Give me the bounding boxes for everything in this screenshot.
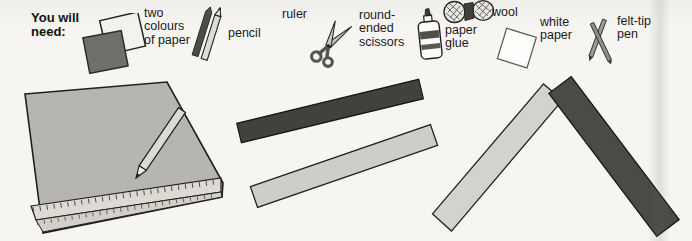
wool-icon	[443, 0, 495, 28]
material-label-pencil: pencil	[228, 27, 261, 40]
material-label-two-colours-of-paper: two colours of paper	[144, 7, 190, 47]
felt-pens-icon	[583, 17, 617, 73]
pencils-icon	[186, 3, 226, 67]
chevron-dark-strip	[549, 77, 679, 237]
chevron-light-strip	[433, 84, 563, 231]
material-label-ruler: ruler	[282, 8, 307, 21]
material-label-felt-tip-pen: felt-tip pen	[617, 15, 651, 42]
scissors-icon	[306, 17, 356, 75]
glue-bottle-icon	[417, 8, 443, 64]
material-label-wool: wool	[492, 6, 518, 19]
craft-illustrations	[0, 75, 692, 241]
two-strips-illustration	[237, 79, 438, 207]
strips-joined-at-right-angle-illustration	[433, 77, 680, 237]
you-will-need-heading: You will need:	[31, 11, 79, 40]
material-label-white-paper: white paper	[540, 16, 572, 43]
book-page: You will need: two colours of paper penc…	[0, 0, 692, 241]
two-papers-icon	[82, 13, 148, 79]
light-strip	[250, 125, 437, 208]
white-paper-icon	[494, 25, 538, 76]
material-label-round-ended-scissors: round- ended scissors	[359, 9, 404, 49]
dark-strip	[237, 79, 424, 142]
sheet-with-pencil-and-ruler-illustration	[25, 82, 223, 233]
